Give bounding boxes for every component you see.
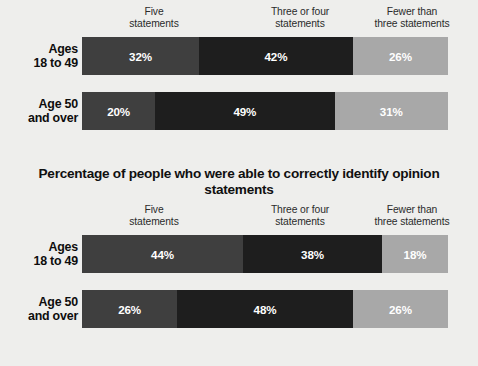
table-row: Age 50and over 20% 49% 31% <box>0 92 478 130</box>
bar-segment-five-statements: 26% <box>82 290 177 328</box>
chart-factual-statements: Fivestatements Three or fourstatements F… <box>0 6 478 130</box>
bar-segment-three-or-four-statements: 42% <box>199 37 353 75</box>
bar-segment-three-or-four-statements: 38% <box>243 235 382 273</box>
column-header-fewer-than-three-statements: Fewer thanthree statements <box>360 6 464 30</box>
column-header-row-1: Fivestatements Three or fourstatements F… <box>82 6 448 37</box>
bar-segment-five-statements: 44% <box>82 235 243 273</box>
bar-segment-value: 31% <box>380 105 403 118</box>
clipped-top-title: Percentage of people who were able to co… <box>0 0 478 2</box>
bar-segment-value: 44% <box>151 248 174 261</box>
bar-segment-three-or-four-statements: 49% <box>155 92 334 130</box>
bar-segment-value: 18% <box>404 248 427 261</box>
chart-title-opinion: Percentage of people who were able to co… <box>0 166 478 197</box>
table-row: Ages18 to 49 32% 42% 26% <box>0 37 478 75</box>
column-header-three-or-four-statements: Three or fourstatements <box>232 204 368 228</box>
chart-opinion-statements: Percentage of people who were able to co… <box>0 166 478 328</box>
column-header-five-statements: Fivestatements <box>76 204 232 228</box>
stacked-bar-ages-18-to-49: 32% 42% 26% <box>82 37 448 75</box>
row-label-ages-18-to-49: Ages18 to 49 <box>0 240 78 268</box>
bar-segment-value: 26% <box>389 303 412 316</box>
row-label-age-50-and-over: Age 50and over <box>0 295 78 323</box>
bar-segment-value: 32% <box>129 50 152 63</box>
bar-segment-value: 38% <box>301 248 324 261</box>
bar-segment-value: 20% <box>107 105 130 118</box>
stacked-bar-ages-18-to-49: 44% 38% 18% <box>82 235 448 273</box>
bar-segment-fewer-than-three-statements: 26% <box>353 37 448 75</box>
column-header-three-or-four-statements: Three or fourstatements <box>232 6 368 30</box>
bar-segment-value: 49% <box>233 105 256 118</box>
bar-segment-five-statements: 20% <box>82 92 155 130</box>
infographic-page: Percentage of people who were able to co… <box>0 0 478 366</box>
bar-segment-value: 48% <box>254 303 277 316</box>
row-label-age-50-and-over: Age 50and over <box>0 97 78 125</box>
table-row: Age 50and over 26% 48% 26% <box>0 290 478 328</box>
table-row: Ages18 to 49 44% 38% 18% <box>0 235 478 273</box>
stacked-bar-age-50-and-over: 20% 49% 31% <box>82 92 448 130</box>
bar-segment-five-statements: 32% <box>82 37 199 75</box>
bar-segment-value: 26% <box>389 50 412 63</box>
bar-segment-value: 26% <box>118 303 141 316</box>
bar-segment-three-or-four-statements: 48% <box>177 290 353 328</box>
column-header-row-2: Fivestatements Three or fourstatements F… <box>82 204 448 235</box>
column-header-five-statements: Fivestatements <box>76 6 232 30</box>
bar-segment-fewer-than-three-statements: 26% <box>353 290 448 328</box>
clipped-top-title-container: Percentage of people who were able to co… <box>0 0 478 2</box>
bar-segment-fewer-than-three-statements: 18% <box>382 235 448 273</box>
bar-segment-fewer-than-three-statements: 31% <box>335 92 448 130</box>
stacked-bar-age-50-and-over: 26% 48% 26% <box>82 290 448 328</box>
bar-segment-value: 42% <box>265 50 288 63</box>
row-label-ages-18-to-49: Ages18 to 49 <box>0 42 78 70</box>
column-header-fewer-than-three-statements: Fewer thanthree statements <box>360 204 464 228</box>
